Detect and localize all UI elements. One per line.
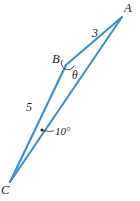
angle-label-theta: θ (72, 70, 78, 82)
angle-marker-dot (40, 128, 43, 131)
vertex-label-a: A (124, 2, 132, 15)
geometry-figure: A B C 3 5 θ 10° (0, 0, 140, 201)
vertex-label-b: B (52, 53, 60, 66)
side-label-ba: 3 (92, 27, 98, 39)
side-label-cb: 5 (26, 101, 32, 113)
angle-label-ten-degrees: 10° (55, 126, 70, 137)
segment-cb (10, 65, 66, 182)
figure-canvas (0, 0, 140, 201)
vertex-label-c: C (1, 184, 9, 197)
